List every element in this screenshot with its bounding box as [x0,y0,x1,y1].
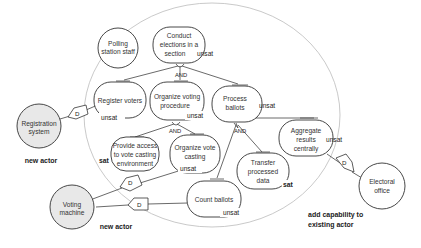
svg-text:D: D [75,110,80,117]
svg-text:processed: processed [248,168,279,176]
svg-text:Aggregate: Aggregate [291,127,322,135]
svg-text:Count ballots: Count ballots [195,196,234,203]
status-unsat: unsat [197,50,213,57]
dependency-aggregate-results: D [336,154,354,172]
goal-aggregate-results: Aggregate results centrally unsat [279,120,342,156]
svg-text:system: system [29,128,50,136]
svg-text:casting: casting [185,153,206,161]
svg-text:Electoral: Electoral [369,178,395,185]
dependency-count-ballots: D [128,198,148,210]
goal-organize-voting-procedure: Organize voting procedure unsat [150,82,209,120]
goal-register-voters: Register voters unsat [94,82,146,121]
actor-registration-system: Registration system new actor [17,104,61,164]
and-label: AND [175,72,187,78]
status-unsat: unsat [259,102,275,109]
svg-text:environment: environment [117,160,153,167]
actor-electoral-office: Electoral office add capability to exist… [308,163,405,229]
svg-text:to vote casting: to vote casting [114,151,157,159]
svg-text:ballots: ballots [225,104,245,111]
status-unsat: unsat [223,209,239,216]
status-unsat: unsat [326,136,342,143]
goal-transfer-processed-data: Transfer processed data sat [237,153,296,189]
svg-text:office: office [374,187,390,194]
svg-text:procedure: procedure [160,102,190,110]
svg-text:station staff: station staff [101,48,135,55]
svg-text:Conduct: Conduct [167,32,192,39]
goal-count-ballots: Count ballots unsat [187,181,246,217]
svg-text:D: D [128,179,133,186]
svg-text:D: D [137,201,142,208]
status-unsat: unsat [180,165,196,172]
svg-text:Registration: Registration [21,120,57,128]
status-sat: sat [99,157,110,164]
status-unsat: unsat [187,112,203,119]
svg-text:centrally: centrally [294,145,319,153]
dependency-organize-vote-casting: D [120,175,142,191]
svg-text:Process: Process [223,95,248,102]
svg-text:Organize voting: Organize voting [154,93,201,101]
svg-text:Register voters: Register voters [98,97,143,105]
goal-process-ballots: Process ballots unsat [212,86,275,122]
annotation-add-capability: existing actor [308,221,354,229]
goal-conduct-elections: Conduct elections in a section unsat [153,27,213,63]
svg-text:section: section [165,50,186,57]
svg-text:Voting: Voting [63,201,82,209]
and-label: AND [234,128,246,134]
actor-polling-station-staff: Polling station staff [98,28,138,68]
annotation-new-actor: new actor [100,223,133,230]
goal-organize-vote-casting: Organize vote casting unsat [170,135,220,173]
svg-text:elections in a: elections in a [160,41,199,48]
and-label: AND [169,128,181,134]
goal-model-diagram: AND AND AND D D D D P [0,0,421,248]
status-unsat: unsat [101,114,117,121]
actor-voting-machine: Voting machine new actor [50,185,133,230]
svg-text:Provide access: Provide access [113,142,158,149]
annotation-new-actor: new actor [25,157,58,164]
dependency-register-voters: D [68,105,88,119]
svg-text:Transfer: Transfer [251,159,276,166]
svg-text:D: D [342,159,347,166]
annotation-add-capability: add capability to [308,211,363,219]
svg-text:machine: machine [60,209,85,216]
svg-text:Polling: Polling [108,40,128,48]
status-sat: sat [283,181,294,188]
svg-text:results: results [296,136,316,143]
goal-provide-access: Provide access to vote casting environme… [99,137,159,171]
svg-text:Organize vote: Organize vote [174,144,215,152]
svg-text:data: data [257,177,270,184]
